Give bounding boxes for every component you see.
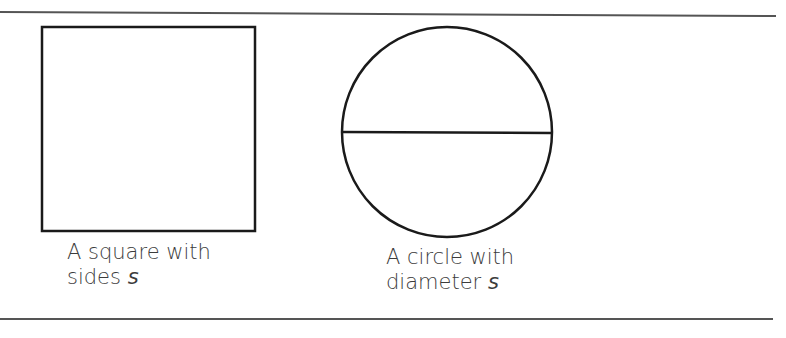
- figure: A square with sides s A circle with diam…: [0, 0, 786, 338]
- circle-caption-variable: s: [488, 270, 499, 294]
- circle-diameter-line: [342, 132, 552, 133]
- square-caption-line2: sides s: [67, 265, 211, 290]
- bottom-rule: [0, 318, 773, 320]
- circle-caption-text: diameter: [386, 270, 488, 294]
- circle-caption-line1: A circle with: [386, 245, 514, 270]
- square-caption-text: sides: [67, 265, 128, 289]
- square-shape: [42, 27, 255, 231]
- circle-caption: A circle with diameter s: [386, 245, 514, 295]
- square-caption-line1: A square with: [67, 240, 211, 265]
- square-caption: A square with sides s: [67, 240, 211, 290]
- circle-caption-line2: diameter s: [386, 270, 514, 295]
- square-caption-variable: s: [128, 265, 139, 289]
